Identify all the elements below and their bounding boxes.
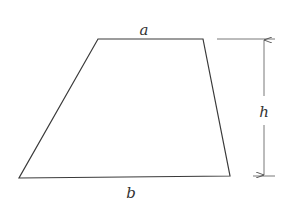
- trapezoid-shape: [19, 39, 230, 178]
- label-a: a: [140, 21, 149, 39]
- label-b: b: [126, 184, 136, 202]
- trapezoid-diagram: a h b: [0, 0, 287, 214]
- label-h: h: [259, 103, 269, 121]
